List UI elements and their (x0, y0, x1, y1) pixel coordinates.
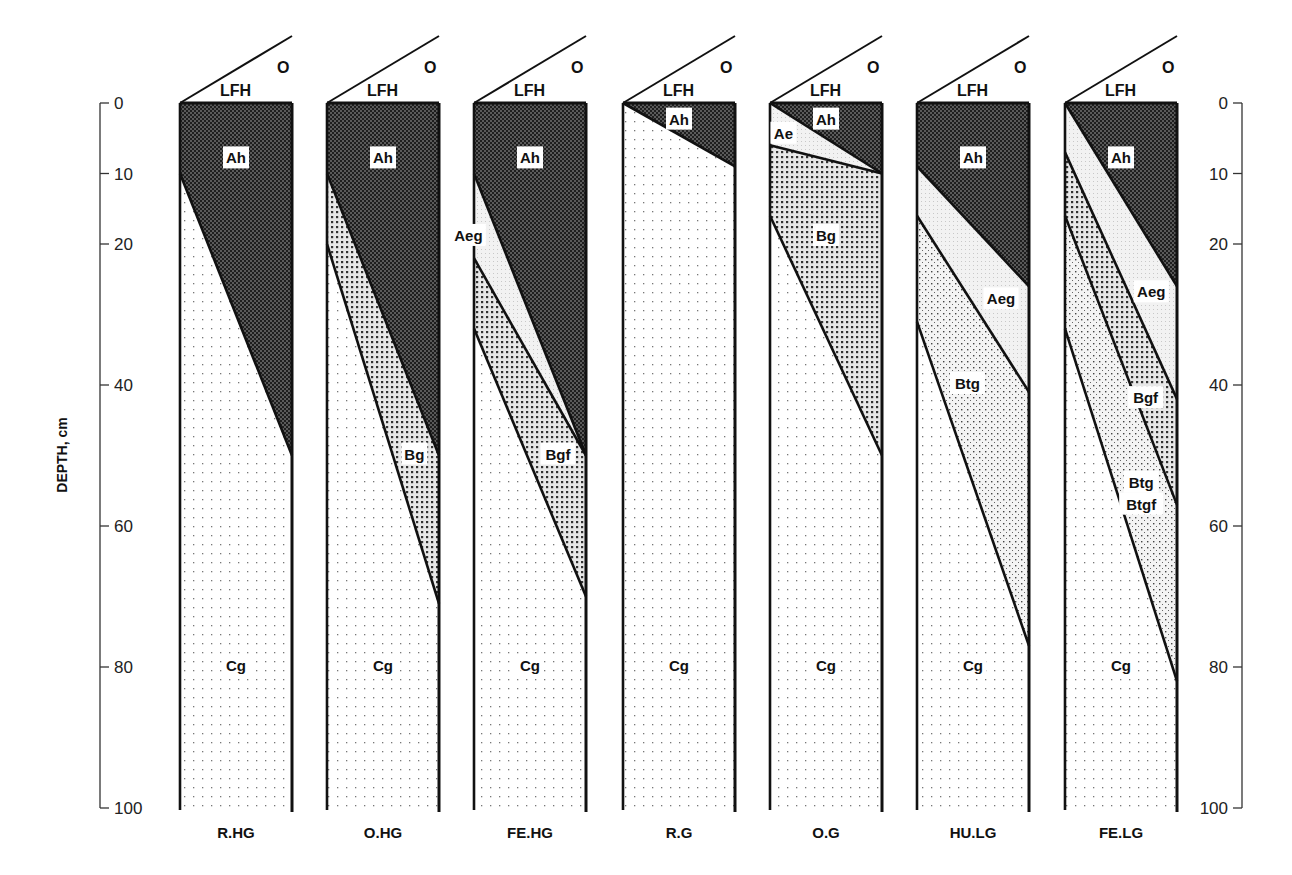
organic-label: O (867, 59, 879, 76)
depth-axis-right: 01020406080100 (1200, 94, 1242, 818)
lfh-label: LFH (367, 82, 398, 99)
profile-o-hg: OLFHAhBgCgO.HG (327, 36, 439, 841)
lfh-label: LFH (514, 82, 545, 99)
axis-tick-label: 60 (114, 517, 133, 536)
profile-r-hg: OLFHAhCgR.HG (180, 36, 292, 841)
horizon-label: Ae (774, 125, 793, 142)
soil-profiles: OLFHAhCgR.HGOLFHAhBgCgO.HGOLFHAhAegBgfCg… (180, 36, 1177, 841)
soil-profile-diagram: 01020406080100 01020406080100 DEPTH, cm … (0, 0, 1292, 875)
horizon-label: Cg (816, 657, 836, 674)
axis-tick-label: 40 (114, 376, 133, 395)
horizon-label: Bg (816, 227, 836, 244)
axis-tick-label: 20 (114, 235, 133, 254)
axis-tick-label: 80 (1209, 658, 1228, 677)
profile-name: HU.LG (950, 824, 997, 841)
horizon-label: Ah (669, 111, 689, 128)
organic-label: O (571, 59, 583, 76)
horizon-label: Cg (226, 657, 246, 674)
lfh-label: LFH (810, 82, 841, 99)
profile-name: O.G (812, 824, 840, 841)
horizon-label: Ah (1111, 149, 1131, 166)
organic-label: O (720, 59, 732, 76)
horizon-label: Aeg (987, 290, 1015, 307)
axis-tick-label: 40 (1209, 376, 1228, 395)
horizon-label: Ah (816, 111, 836, 128)
horizon-label: Bgf (1133, 389, 1159, 406)
profile-name: O.HG (364, 824, 402, 841)
axis-tick-label: 0 (114, 94, 123, 113)
horizon-label: Bgf (546, 446, 572, 463)
profile-fe-lg: OLFHAhAegBgfBtgBtgfCgFE.LG (1065, 36, 1177, 841)
horizon-label: Cg (1111, 657, 1131, 674)
profile-name: FE.HG (507, 824, 553, 841)
horizon-label: Cg (373, 657, 393, 674)
horizon-label: Btgf (1126, 496, 1157, 513)
horizon-label: Cg (669, 657, 689, 674)
lfh-label: LFH (663, 82, 694, 99)
axis-tick-label: 80 (114, 658, 133, 677)
horizon-label: Aeg (1137, 283, 1165, 300)
organic-label: O (1014, 59, 1026, 76)
horizon-label: Aeg (454, 227, 482, 244)
lfh-label: LFH (1105, 82, 1136, 99)
axis-title: DEPTH, cm (54, 417, 70, 492)
axis-tick-label: 10 (1209, 165, 1228, 184)
profile-name: FE.LG (1099, 824, 1143, 841)
horizon-label: Cg (520, 657, 540, 674)
profile-r-g: OLFHAhCgR.G (623, 36, 735, 841)
lfh-label: LFH (220, 82, 251, 99)
horizon-label: Btg (955, 375, 980, 392)
profile-hu-lg: OLFHAhAegBtgCgHU.LG (917, 36, 1029, 841)
depth-axis-left: 01020406080100 (100, 94, 142, 818)
axis-tick-label: 20 (1209, 235, 1228, 254)
profile-name: R.HG (217, 824, 255, 841)
axis-tick-label: 60 (1209, 517, 1228, 536)
profile-fe-hg: OLFHAhAegBgfCgFE.HG (451, 36, 586, 841)
organic-label: O (424, 59, 436, 76)
axis-tick-label: 100 (1200, 799, 1228, 818)
horizon-label: Ah (520, 149, 540, 166)
axis-tick-label: 0 (1219, 94, 1228, 113)
organic-label: O (1162, 59, 1174, 76)
organic-label: O (277, 59, 289, 76)
lfh-label: LFH (957, 82, 988, 99)
horizon-cg (623, 103, 735, 808)
horizon-label: Btg (1129, 474, 1154, 491)
profile-o-g: OLFHAhAeBgCgO.G (770, 36, 882, 841)
horizon-label: Ah (226, 149, 246, 166)
horizon-label: Ah (373, 149, 393, 166)
horizon-label: Cg (963, 657, 983, 674)
axis-tick-label: 100 (114, 799, 142, 818)
horizon-label: Ah (963, 149, 983, 166)
profile-name: R.G (666, 824, 693, 841)
axis-tick-label: 10 (114, 165, 133, 184)
horizon-label: Bg (404, 446, 424, 463)
